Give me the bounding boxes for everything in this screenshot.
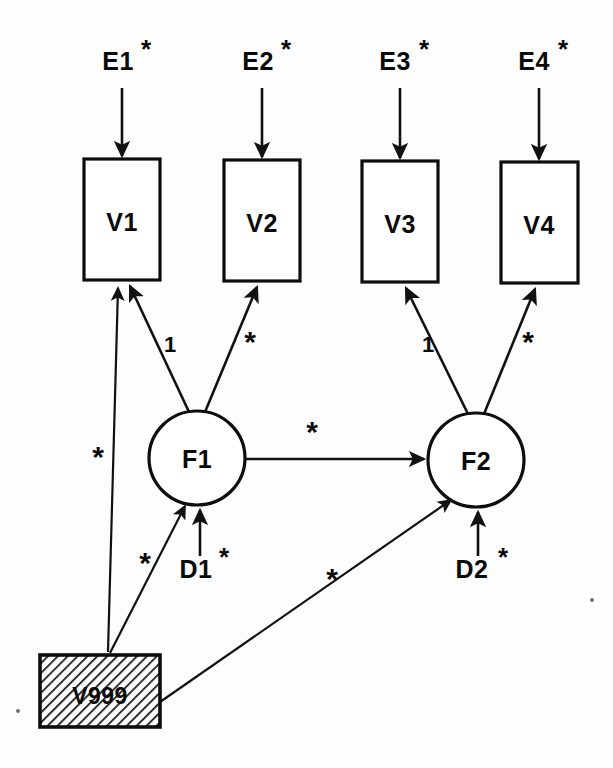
error-star-e3: * <box>419 34 430 64</box>
node-label-f1: F1 <box>182 445 212 473</box>
path-label-f1-f2: * <box>306 415 318 448</box>
error-label-e4: E4 <box>518 47 550 75</box>
sem-diagram-canvas: V1 V2 V3 V4 F1 F2 <box>0 0 613 768</box>
disturbance-star-d2: * <box>498 542 509 572</box>
node-label-v4: V4 <box>523 211 555 239</box>
constant-node-group: V999 <box>40 655 160 727</box>
error-label-group: E1 * E2 * E3 * E4 * <box>102 34 569 75</box>
error-label-e2: E2 <box>242 47 274 75</box>
disturbance-label-group: D1 * D2 * <box>180 542 509 583</box>
disturbance-label-d1: D1 <box>180 555 213 583</box>
path-label-v999-f1: * <box>139 546 151 579</box>
node-label-v999: V999 <box>72 683 128 709</box>
node-label-v1: V1 <box>106 208 138 236</box>
node-label-v3: V3 <box>384 210 416 238</box>
factor-loading-group <box>130 286 535 414</box>
path-label-v999-v1: * <box>92 440 104 473</box>
disturbance-star-d1: * <box>219 542 230 572</box>
error-star-e2: * <box>281 34 292 64</box>
path-label-v999-f2: * <box>326 562 338 595</box>
error-star-e1: * <box>141 34 152 64</box>
path-f1-to-v1 <box>130 286 189 412</box>
path-v999-to-f2 <box>160 500 451 702</box>
path-v999-to-v1 <box>108 288 118 652</box>
error-star-e4: * <box>558 34 569 64</box>
sem-path-diagram: V1 V2 V3 V4 F1 F2 <box>0 0 613 768</box>
node-label-f2: F2 <box>461 447 491 475</box>
path-label-load-v1: 1 <box>164 332 176 357</box>
scan-speck-right <box>590 598 594 602</box>
path-f2-to-v3 <box>406 288 468 414</box>
measured-variable-group: V1 V2 V3 V4 <box>84 159 578 283</box>
path-label-load-v3: 1 <box>422 332 434 357</box>
error-label-e1: E1 <box>102 47 134 75</box>
error-arrow-group <box>122 88 539 159</box>
error-label-e3: E3 <box>379 47 411 75</box>
disturbance-arrow-group <box>200 510 478 556</box>
path-label-load-v4: * <box>522 325 534 358</box>
node-label-v2: V2 <box>246 209 278 237</box>
disturbance-label-d2: D2 <box>456 555 489 583</box>
path-v999-to-f1 <box>110 506 185 653</box>
scan-speck-left <box>16 709 20 713</box>
path-label-load-v2: * <box>244 325 256 358</box>
